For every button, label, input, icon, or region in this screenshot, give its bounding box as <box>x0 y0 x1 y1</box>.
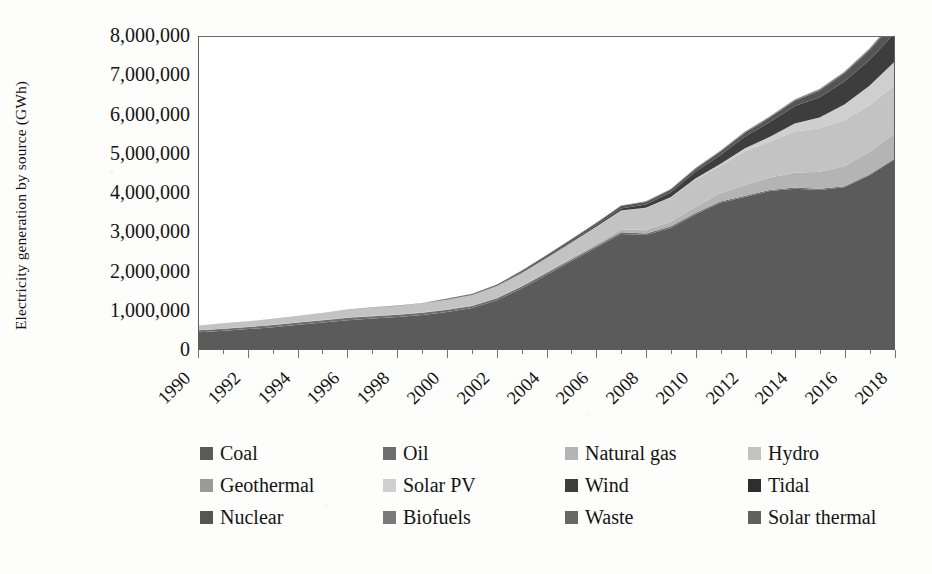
legend-swatch-icon <box>748 447 761 460</box>
x-axis-tick <box>397 350 398 358</box>
x-axis-tick <box>895 350 896 358</box>
legend-label: Wind <box>585 474 629 496</box>
x-axis-tick-label: 2012 <box>702 368 743 409</box>
legend-label: Tidal <box>768 474 810 496</box>
y-axis-tick-label: 2,000,000 <box>110 261 190 281</box>
x-axis-tick <box>870 350 871 354</box>
x-axis-tick <box>721 350 722 354</box>
legend-item[interactable]: Biofuels <box>383 506 471 528</box>
legend-item[interactable]: Hydro <box>748 442 819 464</box>
y-axis-title-container: Electricity generation by source (GWh) <box>0 0 34 360</box>
y-axis-tick-label: 4,000,000 <box>110 182 190 202</box>
legend-label: Waste <box>585 506 633 528</box>
x-axis-tick <box>696 350 697 358</box>
legend-swatch-icon <box>565 511 578 524</box>
x-axis-tick-label: 1998 <box>353 368 394 409</box>
x-axis-tick-label: 1992 <box>204 368 245 409</box>
legend-swatch-icon <box>383 479 396 492</box>
x-axis-tick-label: 2010 <box>652 368 693 409</box>
legend-item[interactable]: Nuclear <box>200 506 283 528</box>
x-axis-tick <box>746 350 747 358</box>
legend-swatch-icon <box>200 447 213 460</box>
x-axis-tick-label: 2006 <box>552 368 593 409</box>
y-axis-title: Electricity generation by source (GWh) <box>12 81 30 330</box>
legend-item[interactable]: Solar PV <box>383 474 476 496</box>
legend-swatch-icon <box>200 511 213 524</box>
x-axis-tick-labels: 1990199219941996199820002002200420062008… <box>150 358 932 428</box>
x-axis-tick <box>547 350 548 358</box>
x-axis-tick <box>472 350 473 354</box>
legend-swatch-icon <box>748 511 761 524</box>
legend-label: Natural gas <box>585 442 677 464</box>
x-axis-tick-label: 1994 <box>254 368 295 409</box>
y-axis-tick-label: 3,000,000 <box>110 221 190 241</box>
x-axis-tick <box>322 350 323 354</box>
x-axis-tick <box>347 350 348 358</box>
legend-label: Coal <box>220 442 258 464</box>
plot-area <box>198 36 895 350</box>
x-axis-tick-label: 2004 <box>503 368 544 409</box>
x-axis-tick-label: 2008 <box>602 368 643 409</box>
stacked-area-chart: Electricity generation by source (GWh) 8… <box>0 0 932 574</box>
x-axis-tick <box>522 350 523 354</box>
x-axis-tick-label: 2000 <box>403 368 444 409</box>
y-axis-tick-label: 8,000,000 <box>110 25 190 45</box>
x-axis-tick <box>596 350 597 358</box>
x-axis-tick <box>372 350 373 354</box>
legend-item[interactable]: Oil <box>383 442 429 464</box>
legend-item[interactable]: Solar thermal <box>748 506 876 528</box>
y-axis-tick-label: 1,000,000 <box>110 300 190 320</box>
legend-item[interactable]: Waste <box>565 506 633 528</box>
x-axis-tick <box>820 350 821 354</box>
legend-swatch-icon <box>565 447 578 460</box>
legend-item[interactable]: Natural gas <box>565 442 677 464</box>
legend-swatch-icon <box>383 447 396 460</box>
legend-swatch-icon <box>383 511 396 524</box>
legend-label: Solar thermal <box>768 506 876 528</box>
legend-label: Geothermal <box>220 474 314 496</box>
legend-swatch-icon <box>565 479 578 492</box>
x-axis-tick-label: 2002 <box>453 368 494 409</box>
y-axis-tick-label: 7,000,000 <box>110 64 190 84</box>
legend-item[interactable]: Coal <box>200 442 258 464</box>
legend-label: Biofuels <box>403 506 471 528</box>
x-axis-tick-label: 2016 <box>801 368 842 409</box>
x-axis-tick <box>198 350 199 358</box>
x-axis-tick <box>646 350 647 358</box>
legend-item[interactable]: Wind <box>565 474 629 496</box>
y-axis-tick-label: 6,000,000 <box>110 104 190 124</box>
chart-legend: CoalOilNatural gasHydroGeothermalSolar P… <box>0 438 932 538</box>
legend-label: Oil <box>403 442 429 464</box>
x-axis-tick-label: 2014 <box>751 368 792 409</box>
legend-item[interactable]: Geothermal <box>200 474 314 496</box>
legend-swatch-icon <box>748 479 761 492</box>
x-axis-tick-label: 1996 <box>303 368 344 409</box>
x-axis-tick <box>845 350 846 358</box>
x-axis-tick <box>447 350 448 358</box>
y-axis-tick-label: 0 <box>180 339 190 359</box>
y-axis-tick-label: 5,000,000 <box>110 143 190 163</box>
x-axis-tick <box>298 350 299 358</box>
x-axis-tick <box>621 350 622 354</box>
x-axis-tick <box>497 350 498 358</box>
x-axis-tick <box>422 350 423 354</box>
x-axis-tick <box>571 350 572 354</box>
x-axis-tick-label: 2018 <box>851 368 892 409</box>
legend-label: Hydro <box>768 442 819 464</box>
y-axis-tick-labels: 8,000,0007,000,0006,000,0005,000,0004,00… <box>30 0 190 360</box>
legend-item[interactable]: Tidal <box>748 474 810 496</box>
x-axis-tick <box>223 350 224 354</box>
x-axis-tick <box>771 350 772 354</box>
legend-label: Nuclear <box>220 506 283 528</box>
x-axis-tick <box>795 350 796 358</box>
legend-swatch-icon <box>200 479 213 492</box>
legend-label: Solar PV <box>403 474 476 496</box>
x-axis-tick <box>248 350 249 358</box>
area-series-svg <box>199 37 894 349</box>
x-axis-tick <box>273 350 274 354</box>
x-axis-tick <box>671 350 672 354</box>
x-axis-tick-label: 1990 <box>154 368 195 409</box>
